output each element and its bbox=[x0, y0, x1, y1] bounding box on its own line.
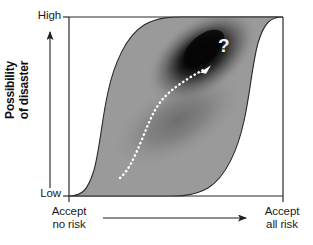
x-axis-right-label-line2: all risk bbox=[251, 218, 313, 231]
x-axis-right-label-line1: Accept bbox=[251, 205, 313, 218]
y-axis-title-line2: of disaster bbox=[17, 25, 31, 155]
y-axis-title-line1: Possibility bbox=[3, 25, 17, 155]
x-axis-right-label: Accept all risk bbox=[251, 205, 313, 231]
y-axis-title: Possibility of disaster bbox=[3, 25, 31, 155]
x-axis-left-label-line2: no risk bbox=[38, 218, 100, 231]
question-mark-annotation: ? bbox=[218, 36, 230, 55]
x-axis-left-label-line1: Accept bbox=[38, 205, 100, 218]
x-axis-left-label: Accept no risk bbox=[38, 205, 100, 231]
y-axis-high-label: High bbox=[30, 9, 61, 22]
risk-diagram-figure: High Low Possibility of disaster Accept … bbox=[0, 0, 313, 245]
y-axis-low-label: Low bbox=[30, 187, 61, 200]
